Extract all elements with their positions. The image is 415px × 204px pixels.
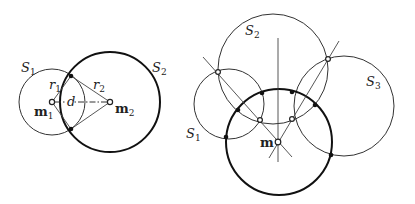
tangent-point — [313, 103, 318, 108]
intersection-point — [326, 57, 331, 62]
intersection-point — [258, 118, 263, 123]
left-figure: S1 S2 r1 r2 d m1 m2 — [19, 52, 167, 152]
label-s3: S3 — [366, 74, 381, 91]
tangent-point — [329, 153, 334, 158]
intersection-point — [290, 117, 295, 122]
label-s1: S1 — [186, 126, 201, 143]
tangent-point — [236, 108, 241, 113]
tangent-point — [260, 91, 265, 96]
label-s1: S1 — [21, 60, 36, 77]
label-r2: r2 — [93, 77, 105, 94]
radical-center-m-point — [275, 139, 281, 145]
diagram-canvas: S1 S2 r1 r2 d m1 m2 — [0, 0, 415, 204]
tangent-point — [290, 90, 295, 95]
label-s2: S2 — [245, 23, 260, 40]
intersection-point — [216, 70, 221, 75]
center-m2-point — [107, 99, 112, 104]
label-d: d — [67, 94, 75, 109]
intersection-point — [69, 127, 74, 132]
label-m1: m1 — [34, 104, 54, 121]
circle-s1 — [194, 69, 264, 139]
label-s2: S2 — [152, 60, 167, 77]
label-m: m — [260, 135, 274, 150]
center-m1-point — [49, 99, 54, 104]
right-figure: S2 S1 S3 m — [186, 14, 394, 195]
radius-r2-lower — [71, 102, 110, 129]
circle-s3 — [294, 56, 394, 156]
label-m2: m2 — [115, 101, 135, 118]
intersection-point — [69, 74, 74, 79]
label-r1: r1 — [49, 77, 61, 94]
tangent-point — [224, 135, 229, 140]
